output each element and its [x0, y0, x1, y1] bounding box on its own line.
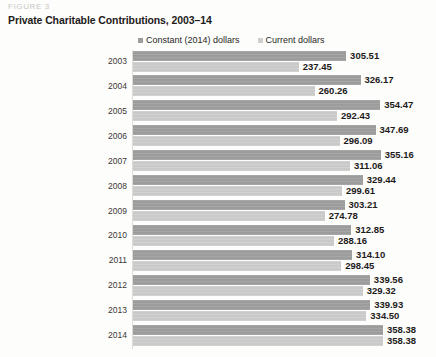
bar-current-2013[interactable]	[133, 311, 366, 321]
bar-track-constant: 312.85	[133, 225, 436, 235]
bar-track-constant: 347.69	[133, 125, 436, 135]
bar-constant-2003[interactable]	[133, 51, 346, 61]
category-label-2009: 2009	[108, 206, 127, 216]
category-label-2012: 2012	[108, 280, 127, 290]
bar-track-constant: 339.56	[133, 275, 436, 285]
bar-value-current-2005: 292.43	[341, 110, 370, 121]
chart-title: Private Charitable Contributions, 2003–1…	[8, 14, 212, 26]
bar-value-current-2008: 299.61	[346, 185, 375, 196]
bar-track-current: 296.09	[133, 136, 436, 146]
bar-value-current-2003: 237.45	[303, 61, 332, 72]
bar-value-constant-2014: 358.38	[387, 324, 416, 335]
legend-item-constant[interactable]: Constant (2014) dollars	[138, 35, 240, 45]
bar-current-2004[interactable]	[133, 86, 315, 96]
bar-current-2005[interactable]	[133, 111, 337, 121]
category-label-2007: 2007	[108, 156, 127, 166]
legend-label-constant: Constant (2014) dollars	[146, 35, 240, 45]
bar-track-current: 311.06	[133, 161, 436, 171]
bar-value-current-2013: 334.50	[370, 310, 399, 321]
category-label-2005: 2005	[108, 106, 127, 116]
plot-area: 2003305.51237.452004326.17260.262005354.…	[133, 50, 436, 349]
bar-current-2003[interactable]	[133, 62, 299, 72]
bar-value-constant-2013: 339.93	[374, 299, 403, 310]
bar-value-constant-2007: 355.16	[385, 149, 414, 160]
bar-track-current: 299.61	[133, 186, 436, 196]
bar-value-current-2009: 274.78	[329, 210, 358, 221]
bar-group: 2004326.17260.26	[133, 75, 436, 100]
bar-track-current: 288.16	[133, 236, 436, 246]
bar-current-2014[interactable]	[133, 336, 383, 346]
bar-track-constant: 358.38	[133, 325, 436, 335]
category-label-2006: 2006	[108, 131, 127, 141]
figure-number: FIGURE 3	[8, 2, 50, 11]
bar-track-constant: 355.16	[133, 150, 436, 160]
category-label-2003: 2003	[108, 56, 127, 66]
category-label-2010: 2010	[108, 230, 127, 240]
legend-item-current[interactable]: Current dollars	[258, 35, 325, 45]
bar-track-current: 329.32	[133, 286, 436, 296]
bar-track-constant: 329.44	[133, 175, 436, 185]
bar-constant-2008[interactable]	[133, 175, 363, 185]
bar-current-2012[interactable]	[133, 286, 363, 296]
bar-constant-2007[interactable]	[133, 150, 381, 160]
bar-group: 2007355.16311.06	[133, 150, 436, 175]
bar-track-current: 274.78	[133, 211, 436, 221]
bar-value-current-2014: 358.38	[387, 335, 416, 346]
bar-constant-2005[interactable]	[133, 100, 380, 110]
bar-track-current: 237.45	[133, 62, 436, 72]
bar-track-constant: 305.51	[133, 51, 436, 61]
bar-group: 2011314.10298.45	[133, 249, 436, 274]
bar-track-constant: 303.21	[133, 200, 436, 210]
category-label-2014: 2014	[108, 330, 127, 340]
bar-value-constant-2004: 326.17	[365, 74, 394, 85]
bar-current-2008[interactable]	[133, 186, 342, 196]
bar-value-current-2012: 329.32	[367, 285, 396, 296]
category-label-2004: 2004	[108, 81, 127, 91]
bar-rows: 2003305.51237.452004326.17260.262005354.…	[133, 50, 436, 349]
bar-group: 2008329.44299.61	[133, 175, 436, 200]
bar-value-constant-2012: 339.56	[374, 274, 403, 285]
bar-track-constant: 354.47	[133, 100, 436, 110]
bar-track-current: 298.45	[133, 261, 436, 271]
bar-track-current: 334.50	[133, 311, 436, 321]
bar-group: 2013339.93334.50	[133, 299, 436, 324]
bar-value-constant-2008: 329.44	[367, 174, 396, 185]
bar-value-current-2007: 311.06	[354, 160, 383, 171]
category-label-2008: 2008	[108, 181, 127, 191]
bar-current-2009[interactable]	[133, 211, 325, 221]
bar-constant-2014[interactable]	[133, 325, 383, 335]
bar-track-constant: 339.93	[133, 300, 436, 310]
bar-constant-2011[interactable]	[133, 250, 352, 260]
bar-value-constant-2003: 305.51	[350, 50, 379, 61]
bar-value-current-2004: 260.26	[319, 85, 348, 96]
bar-constant-2006[interactable]	[133, 125, 376, 135]
legend-swatch-icon	[138, 38, 143, 43]
bar-group: 2006347.69296.09	[133, 125, 436, 150]
bar-track-current: 292.43	[133, 111, 436, 121]
bar-current-2011[interactable]	[133, 261, 341, 271]
legend-swatch-icon	[258, 38, 263, 43]
bar-current-2006[interactable]	[133, 136, 340, 146]
legend-label-current: Current dollars	[266, 35, 325, 45]
bar-track-current: 358.38	[133, 336, 436, 346]
bar-group: 2003305.51237.45	[133, 50, 436, 75]
bar-constant-2013[interactable]	[133, 300, 370, 310]
bar-constant-2012[interactable]	[133, 275, 370, 285]
figure-container: FIGURE 3 Private Charitable Contribution…	[0, 0, 436, 357]
bar-value-constant-2011: 314.10	[356, 249, 385, 260]
bar-constant-2010[interactable]	[133, 225, 351, 235]
bar-value-constant-2010: 312.85	[355, 224, 384, 235]
bar-group: 2005354.47292.43	[133, 100, 436, 125]
bar-group: 2009303.21274.78	[133, 200, 436, 225]
bar-current-2010[interactable]	[133, 236, 334, 246]
bar-constant-2009[interactable]	[133, 200, 345, 210]
chart-legend: Constant (2014) dollars Current dollars	[138, 35, 325, 45]
bar-value-constant-2006: 347.69	[380, 124, 409, 135]
bar-group: 2012339.56329.32	[133, 274, 436, 299]
bar-constant-2004[interactable]	[133, 75, 361, 85]
category-label-2011: 2011	[109, 255, 127, 265]
bar-value-constant-2005: 354.47	[384, 99, 413, 110]
bar-value-current-2010: 288.16	[338, 235, 367, 246]
bar-value-current-2011: 298.45	[345, 260, 374, 271]
bar-current-2007[interactable]	[133, 161, 350, 171]
